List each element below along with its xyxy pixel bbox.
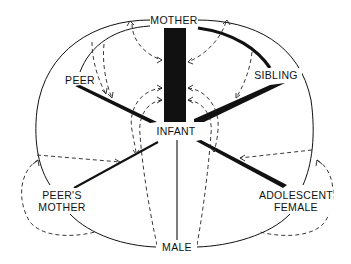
- dashed-mother-to-bar-left: [132, 24, 162, 60]
- node-mother: MOTHER: [150, 14, 197, 26]
- node-sibling: SIBLING: [254, 69, 298, 81]
- social-network-diagram: MOTHER INFANT MALE PEER SIBLING PEER'S M…: [0, 0, 351, 264]
- link-peer-infant: [75, 85, 157, 123]
- arc-mother-peers-mother: [36, 20, 150, 185]
- node-peers-mother-line2: MOTHER: [38, 201, 85, 213]
- node-peers-mother-line1: PEER'S: [42, 189, 81, 201]
- link-mother-infant: [164, 28, 186, 122]
- dashed-arc-to-peer-2: [103, 44, 112, 98]
- dashed-sibling-arc-to-wedge: [236, 52, 252, 98]
- arrowhead-icon: [188, 58, 193, 64]
- dashed-left-to-peers-mother-line: [37, 155, 120, 162]
- arc-mother-adolescent-female: [197, 20, 313, 185]
- node-male: MALE: [162, 241, 192, 253]
- node-peer: PEER: [65, 74, 95, 86]
- node-adolescent-female-line2: FEMALE: [274, 201, 318, 213]
- arc-adolescent-female-male: [197, 214, 290, 247]
- arc-peers-mother-male: [70, 214, 156, 247]
- node-infant: INFANT: [156, 125, 195, 137]
- dashed-right-to-adolescent-line: [240, 150, 312, 158]
- arrowhead-icon: [240, 155, 245, 161]
- arrowhead-icon: [157, 57, 162, 63]
- link-sibling-infant: [194, 83, 285, 122]
- node-adolescent-female-line1: ADOLESCENT: [259, 189, 333, 201]
